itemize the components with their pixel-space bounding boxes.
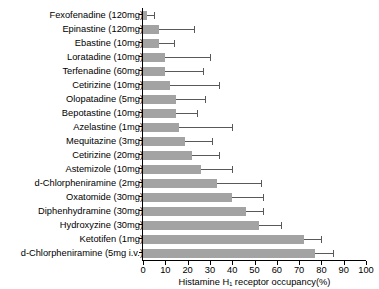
category-label: Loratadine (10mg) xyxy=(67,50,143,64)
bar-row: d-Chlorpheniramine (5mg i.v.) xyxy=(0,246,379,260)
bar-row: Oxatomide (30mg) xyxy=(0,190,379,204)
error-bar-line xyxy=(304,239,322,240)
error-bar-line xyxy=(315,253,333,254)
error-bar-line xyxy=(165,57,210,58)
error-bar-cap xyxy=(333,250,334,257)
bar xyxy=(143,193,232,202)
error-bar-line xyxy=(165,71,203,72)
y-axis-line xyxy=(142,8,143,261)
error-bar-cap xyxy=(232,124,233,131)
error-bar-line xyxy=(185,141,212,142)
bar-row: Fexofenadine (120mg) xyxy=(0,8,379,22)
bar-row: Bepotastine (10mg) xyxy=(0,106,379,120)
category-label: Bepotastine (10mg) xyxy=(62,106,143,120)
category-label: Azelastine (1mg) xyxy=(73,120,143,134)
category-label: Ebastine (10mg) xyxy=(75,36,143,50)
bar xyxy=(143,81,170,90)
category-label: Mequitazine (3mg) xyxy=(66,134,143,148)
error-bar-line xyxy=(201,169,232,170)
error-bar-line xyxy=(179,127,233,128)
error-bar-cap xyxy=(203,68,204,75)
error-bar-line xyxy=(170,85,219,86)
bar-row: Azelastine (1mg) xyxy=(0,120,379,134)
bar-row: Mequitazine (3mg) xyxy=(0,134,379,148)
error-bar-cap xyxy=(321,236,322,243)
bar-row: Ebastine (10mg) xyxy=(0,36,379,50)
bar-row: d-Chlorpheniramine (2mg) xyxy=(0,176,379,190)
error-bar-line xyxy=(232,197,263,198)
category-label: Cetirizine (10mg) xyxy=(72,78,143,92)
error-bar-cap xyxy=(205,96,206,103)
bar xyxy=(143,221,259,230)
error-bar-cap xyxy=(197,110,198,117)
error-bar-cap xyxy=(281,222,282,229)
error-bar-line xyxy=(159,29,195,30)
bar-row: Ketotifen (1mg) xyxy=(0,232,379,246)
error-bar-cap xyxy=(174,40,175,47)
bar xyxy=(143,67,165,76)
error-bar-cap xyxy=(212,138,213,145)
category-label: Diphenhydramine (30mg) xyxy=(38,204,143,218)
error-bar-cap xyxy=(154,12,155,19)
error-bar-cap xyxy=(219,82,220,89)
error-bar-cap xyxy=(210,54,211,61)
bar-row: Diphenhydramine (30mg) xyxy=(0,204,379,218)
error-bar-line xyxy=(217,183,262,184)
bar-row: Loratadine (10mg) xyxy=(0,50,379,64)
bar xyxy=(143,39,159,48)
category-label: Olopatadine (5mg) xyxy=(66,92,143,106)
bar xyxy=(143,179,217,188)
error-bar-line xyxy=(176,99,205,100)
bar xyxy=(143,151,192,160)
bar xyxy=(143,165,201,174)
category-label: d-Chlorpheniramine (5mg i.v.) xyxy=(21,246,143,260)
error-bar-line xyxy=(176,113,196,114)
category-label: Astemizole (10mg) xyxy=(66,162,144,176)
error-bar-cap xyxy=(263,208,264,215)
category-label: d-Chlorpheniramine (2mg) xyxy=(34,176,143,190)
category-label: Fexofenadine (120mg) xyxy=(49,8,143,22)
category-label: Cetirizine (20mg) xyxy=(72,148,143,162)
bar xyxy=(143,109,176,118)
bar xyxy=(143,95,176,104)
error-bar-line xyxy=(159,43,175,44)
error-bar-cap xyxy=(232,166,233,173)
category-label: Epinastine (120mg) xyxy=(62,22,143,36)
bar-row: Olopatadine (5mg) xyxy=(0,92,379,106)
bar-row: Epinastine (120mg) xyxy=(0,22,379,36)
bar xyxy=(143,25,159,34)
bar xyxy=(143,235,304,244)
bar xyxy=(143,123,179,132)
bar-row: Cetirizine (20mg) xyxy=(0,148,379,162)
error-bar-line xyxy=(246,211,264,212)
bar xyxy=(143,249,315,258)
bar-row: Terfenadine (60mg) xyxy=(0,64,379,78)
x-axis-tick-label: 100 xyxy=(351,265,379,275)
error-bar-cap xyxy=(263,194,264,201)
x-axis-title: Histamine H₁ receptor occupancy(%) xyxy=(143,277,366,287)
category-label: Ketotifen (1mg) xyxy=(79,232,143,246)
bar-row: Cetirizine (10mg) xyxy=(0,78,379,92)
error-bar-cap xyxy=(261,180,262,187)
category-label: Oxatomide (30mg) xyxy=(66,190,143,204)
bar-row: Astemizole (10mg) xyxy=(0,162,379,176)
bar xyxy=(143,137,185,146)
histamine-receptor-occupancy-chart: Fexofenadine (120mg)Epinastine (120mg)Eb… xyxy=(0,0,379,289)
plot-area: Fexofenadine (120mg)Epinastine (120mg)Eb… xyxy=(0,8,379,260)
clipped-caption-fragment xyxy=(4,0,234,5)
error-bar-line xyxy=(259,225,281,226)
bar-row: Hydroxyzine (30mg) xyxy=(0,218,379,232)
error-bar-cap xyxy=(194,26,195,33)
error-bar-cap xyxy=(219,152,220,159)
category-label: Hydroxyzine (30mg) xyxy=(60,218,143,232)
error-bar-line xyxy=(147,15,154,16)
category-label: Terfenadine (60mg) xyxy=(62,64,143,78)
error-bar-line xyxy=(192,155,219,156)
bar xyxy=(143,207,246,216)
bar xyxy=(143,53,165,62)
